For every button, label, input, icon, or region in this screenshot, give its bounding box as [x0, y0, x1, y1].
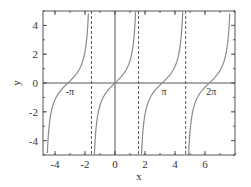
- y-tick-label: -2: [29, 106, 38, 118]
- x-tick-label: 2: [142, 158, 148, 170]
- pi-annotation-label: -π: [66, 86, 74, 97]
- x-tick-label: -4: [50, 158, 60, 170]
- pi-annotation-label: 2π: [206, 86, 216, 97]
- y-tick-label: 2: [33, 48, 39, 60]
- plot-area: -ππ2π: [43, 11, 235, 155]
- y-tick-label: 0: [33, 77, 39, 89]
- y-tick-label: -4: [29, 135, 39, 147]
- y-tick-label: 4: [33, 19, 39, 31]
- x-tick-label: 6: [202, 158, 208, 170]
- x-tick-label: 4: [172, 158, 178, 170]
- tangent-chart: -ππ2π -4-20246 -4-2024 x y: [0, 0, 251, 187]
- pi-annotation-label: π: [162, 86, 167, 97]
- tan-branch-curve: [189, 14, 230, 155]
- y-axis-label: y: [10, 80, 22, 86]
- x-tick-label: 0: [112, 158, 118, 170]
- x-tick-label: -2: [80, 158, 89, 170]
- pi-annotations: -ππ2π: [66, 86, 217, 97]
- x-axis-label: x: [136, 170, 142, 182]
